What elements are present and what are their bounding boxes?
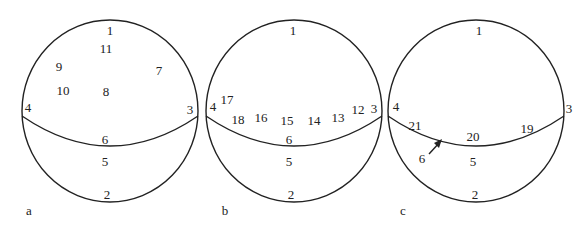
point-label-c-4: 4 bbox=[393, 100, 400, 113]
point-label-c-19: 19 bbox=[521, 122, 534, 135]
point-label-b-5: 5 bbox=[286, 155, 293, 168]
point-label-a-7: 7 bbox=[156, 64, 163, 77]
point-label-b-4: 4 bbox=[210, 100, 217, 113]
point-label-b-14: 14 bbox=[308, 114, 321, 127]
point-label-c-6: 6 bbox=[419, 152, 426, 165]
point-label-a-2: 2 bbox=[104, 188, 111, 201]
point-label-b-17: 17 bbox=[221, 93, 234, 106]
point-label-a-1: 1 bbox=[107, 24, 114, 37]
equator-a bbox=[22, 116, 198, 146]
point-label-c-20: 20 bbox=[467, 130, 480, 143]
point-label-a-11: 11 bbox=[100, 42, 113, 55]
panel-caption-b: b bbox=[222, 204, 229, 217]
point-label-b-6: 6 bbox=[286, 133, 293, 146]
point-label-c-2: 2 bbox=[472, 188, 479, 201]
point-label-b-16: 16 bbox=[255, 111, 268, 124]
point-label-a-9: 9 bbox=[56, 60, 63, 73]
point-label-c-1: 1 bbox=[476, 24, 483, 37]
point-label-b-1: 1 bbox=[290, 24, 297, 37]
point-label-b-2: 2 bbox=[288, 188, 295, 201]
point-label-b-13: 13 bbox=[332, 111, 345, 124]
sphere-c bbox=[388, 20, 564, 202]
panel-caption-a: a bbox=[26, 204, 32, 217]
point-label-b-12: 12 bbox=[352, 103, 365, 116]
point-label-c-21: 21 bbox=[409, 119, 422, 132]
point-label-a-6: 6 bbox=[102, 133, 109, 146]
panel-caption-c: c bbox=[400, 204, 406, 217]
point-label-a-8: 8 bbox=[103, 85, 110, 98]
point-label-b-15: 15 bbox=[281, 114, 294, 127]
point-label-a-4: 4 bbox=[25, 101, 32, 114]
point-label-c-3: 3 bbox=[566, 102, 573, 115]
point-label-a-5: 5 bbox=[102, 155, 109, 168]
point-label-b-18: 18 bbox=[232, 113, 245, 126]
point-label-a-10: 10 bbox=[57, 84, 70, 97]
point-label-c-5: 5 bbox=[470, 155, 477, 168]
point-label-a-3: 3 bbox=[187, 103, 194, 116]
point-label-b-3: 3 bbox=[371, 102, 378, 115]
